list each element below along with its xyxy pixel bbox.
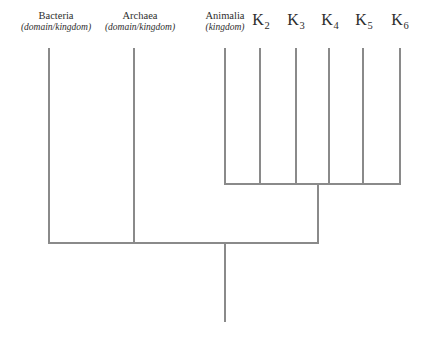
kingdom-label-k4: K4 (312, 12, 348, 32)
taxon-name-archaea: Archaea (84, 10, 196, 22)
kingdom-letter-k2: K (252, 11, 264, 28)
taxon-rank-archaea: (domain/kingdom) (84, 22, 196, 33)
kingdom-label-k5: K5 (346, 12, 382, 32)
kingdom-letter-k5: K (355, 11, 367, 28)
taxon-label-archaea: Archaea (domain/kingdom) (84, 10, 196, 32)
kingdom-subscript-k6: 6 (403, 20, 409, 31)
cladogram-canvas (0, 0, 425, 340)
kingdom-subscript-k5: 5 (367, 20, 373, 31)
kingdom-label-k2: K2 (243, 12, 279, 32)
kingdom-subscript-k2: 2 (264, 20, 270, 31)
kingdom-letter-k6: K (391, 11, 403, 28)
kingdom-subscript-k4: 4 (333, 20, 339, 31)
kingdom-label-k6: K6 (382, 12, 418, 32)
kingdom-letter-k4: K (321, 11, 333, 28)
kingdom-letter-k3: K (287, 11, 299, 28)
kingdom-label-k3: K3 (278, 12, 314, 32)
kingdom-subscript-k3: 3 (299, 20, 305, 31)
